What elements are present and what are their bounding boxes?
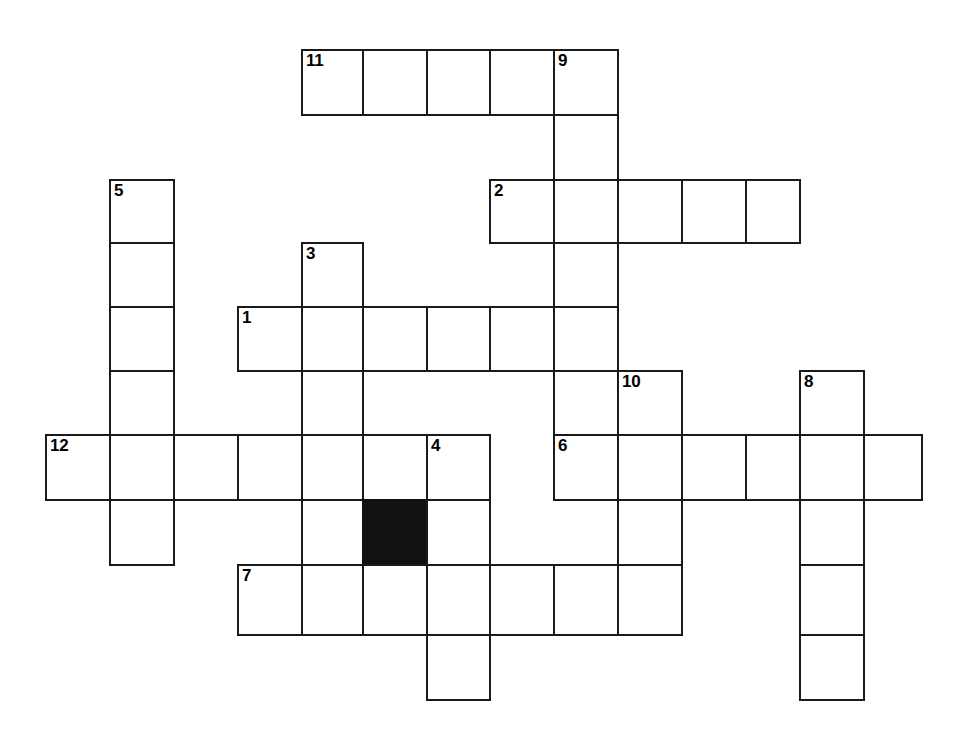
crossword-cell[interactable]	[799, 634, 865, 701]
crossword-cell[interactable]	[863, 434, 923, 501]
clue-number-10: 10	[622, 373, 640, 391]
crossword-cell[interactable]	[426, 306, 491, 372]
clue-number-1: 1	[242, 309, 251, 327]
crossword-cell[interactable]: 8	[799, 370, 865, 436]
crossword-cell[interactable]	[553, 564, 619, 636]
crossword-cell[interactable]	[426, 499, 491, 566]
crossword-grid: 119523110812467	[0, 0, 972, 744]
crossword-cell[interactable]: 5	[109, 179, 175, 244]
clue-number-2: 2	[494, 182, 503, 200]
crossword-cell[interactable]: 6	[553, 434, 619, 501]
crossword-cell[interactable]: 12	[45, 434, 111, 501]
crossword-cell[interactable]	[362, 434, 428, 501]
crossword-cell[interactable]	[362, 306, 428, 372]
crossword-cell[interactable]	[489, 306, 555, 372]
crossword-cell[interactable]	[109, 434, 175, 501]
clue-number-7: 7	[242, 567, 251, 585]
crossword-cell[interactable]	[489, 564, 555, 636]
crossword-cell[interactable]	[553, 179, 619, 244]
crossword-cell[interactable]	[489, 49, 555, 116]
crossword-cell[interactable]: 11	[301, 49, 364, 116]
clue-number-12: 12	[50, 437, 68, 455]
clue-number-9: 9	[558, 52, 567, 70]
crossword-cell[interactable]	[617, 434, 683, 501]
crossword-cell[interactable]	[426, 634, 491, 701]
clue-number-4: 4	[431, 437, 440, 455]
crossword-cell[interactable]	[681, 179, 747, 244]
crossword-cell[interactable]	[617, 564, 683, 636]
crossword-cell[interactable]	[426, 564, 491, 636]
crossword-blocked-cell	[362, 499, 428, 566]
crossword-cell[interactable]	[745, 434, 801, 501]
crossword-cell[interactable]: 1	[237, 306, 303, 372]
crossword-cell[interactable]	[301, 370, 364, 436]
crossword-cell[interactable]	[301, 499, 364, 566]
crossword-cell[interactable]	[301, 306, 364, 372]
crossword-cell[interactable]	[799, 434, 865, 501]
crossword-cell[interactable]	[109, 370, 175, 436]
crossword-cell[interactable]: 4	[426, 434, 491, 501]
crossword-cell[interactable]	[109, 242, 175, 308]
crossword-cell[interactable]: 7	[237, 564, 303, 636]
crossword-cell[interactable]	[553, 114, 619, 181]
crossword-cell[interactable]	[362, 49, 428, 116]
clue-number-11: 11	[306, 52, 323, 70]
crossword-cell[interactable]	[681, 434, 747, 501]
clue-number-5: 5	[114, 182, 123, 200]
crossword-cell[interactable]	[553, 242, 619, 308]
crossword-cell[interactable]	[109, 499, 175, 566]
crossword-cell[interactable]	[553, 306, 619, 372]
crossword-cell[interactable]	[362, 564, 428, 636]
crossword-cell[interactable]	[745, 179, 801, 244]
crossword-cell[interactable]	[109, 306, 175, 372]
crossword-cell[interactable]: 2	[489, 179, 555, 244]
clue-number-3: 3	[306, 245, 315, 263]
crossword-cell[interactable]	[617, 499, 683, 566]
clue-number-8: 8	[804, 373, 813, 391]
crossword-cell[interactable]	[237, 434, 303, 501]
crossword-cell[interactable]	[617, 179, 683, 244]
crossword-cell[interactable]	[173, 434, 239, 501]
crossword-cell[interactable]	[301, 564, 364, 636]
crossword-cell[interactable]	[553, 370, 619, 436]
crossword-cell[interactable]	[799, 499, 865, 566]
crossword-cell[interactable]: 9	[553, 49, 619, 116]
crossword-cell[interactable]: 3	[301, 242, 364, 308]
crossword-cell[interactable]	[426, 49, 491, 116]
crossword-cell[interactable]	[301, 434, 364, 501]
crossword-cell[interactable]	[799, 564, 865, 636]
crossword-cell[interactable]: 10	[617, 370, 683, 436]
clue-number-6: 6	[558, 437, 567, 455]
